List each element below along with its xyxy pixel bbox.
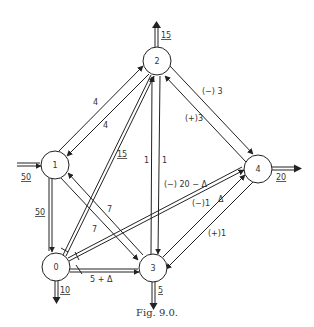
edge-4-2-label: (+)3: [185, 114, 203, 123]
edge-0-2-label: 15: [117, 150, 127, 159]
edge-3-2-label: 1: [144, 156, 149, 165]
edge-1-2-label: 4: [93, 98, 98, 107]
node-0: 0: [42, 253, 70, 281]
edge-2-to-3: [158, 76, 160, 254]
edge-1-to-2: [59, 66, 143, 151]
figure-caption: Fig. 9.0.: [136, 307, 178, 318]
inflow-1-label: 50: [21, 173, 31, 182]
external-inflow-1: [17, 163, 41, 166]
external-outflow-4: [272, 165, 302, 173]
edge-1-0-label: 50: [35, 208, 45, 217]
edge-3-to-1: [68, 173, 143, 255]
node-1-label: 1: [52, 161, 57, 170]
outflow-4-label: 20: [276, 173, 286, 182]
edge-3-to-2: [151, 77, 152, 254]
edge-2-4-label: (−) 3: [202, 87, 223, 96]
node-4: 4: [244, 155, 272, 183]
edge-0-to-3: [70, 265, 139, 274]
edge-0-3-label: 5 + Δ: [90, 275, 113, 284]
node-1: 1: [41, 151, 69, 179]
edge-2-to-1: [67, 74, 149, 156]
edge-4-to-3: [166, 182, 253, 269]
node-0-label: 0: [53, 263, 58, 272]
outflow-3-label: 5: [158, 286, 163, 295]
edge-3-4-label: (−)1: [192, 199, 210, 208]
outflow-2-label: 15: [161, 31, 171, 40]
edge-2-3-label: 1: [162, 156, 167, 165]
external-outflow-2: [152, 21, 161, 47]
outflow-0-label: 10: [60, 286, 70, 295]
edge-3-4-delta-label: Δ: [218, 195, 224, 204]
node-2: 2: [143, 47, 171, 75]
edge-0-4-label: (−) 20 − Δ: [164, 180, 207, 189]
node-4-label: 4: [255, 165, 260, 174]
edge-3-1-label: 7: [107, 205, 112, 214]
node-2-label: 2: [154, 57, 159, 66]
edge-4-3-label: (+)1: [208, 229, 226, 238]
edge-2-1-label: 4: [103, 121, 108, 130]
edge-1-to-0: [49, 178, 52, 252]
edge-2-to-4: [170, 66, 253, 154]
node-3: 3: [139, 254, 167, 282]
node-3-label: 3: [150, 264, 155, 273]
external-outflow-3: [150, 282, 158, 310]
network-diagram: 0 1 2 3 4 50 15 20 10 5 4 4 15 1 1 (−) 3…: [0, 0, 314, 327]
edge-1-3-label: 7: [92, 225, 97, 234]
